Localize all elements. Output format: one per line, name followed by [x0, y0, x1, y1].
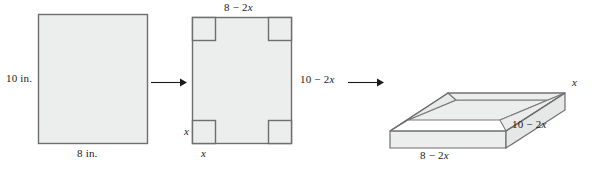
label-corners-top: 8 − 2x [224, 2, 253, 13]
arrow-one [151, 79, 187, 87]
label-box-depth: 10 − 2x [512, 119, 547, 130]
label-sheet-height: 10 in. [6, 73, 32, 84]
corner-square-top-left [193, 18, 216, 41]
sheet-with-corners-shape [193, 18, 292, 144]
box-inner-wall-back-right [448, 93, 565, 100]
arrow-one-head [180, 79, 187, 87]
corner-square-bottom-left [193, 121, 216, 144]
corner-square-top-right [269, 18, 292, 41]
figure-canvas [0, 0, 595, 170]
label-corners-right: 10 − 2x [300, 74, 335, 85]
arrow-two-head [377, 79, 384, 87]
box-front-face [390, 131, 506, 148]
arrow-two [348, 79, 384, 87]
label-corner-side-x: x [184, 126, 189, 137]
flat-sheet-shape [39, 15, 148, 144]
math-figure: 10 in. 8 in. 8 − 2x 10 − 2x x x x 10 − 2… [0, 0, 595, 170]
label-corner-bottom-x: x [201, 148, 206, 159]
corner-square-bottom-right [269, 121, 292, 144]
label-box-width: 8 − 2x [420, 150, 449, 161]
label-sheet-width: 8 in. [77, 148, 98, 159]
sheet-rectangle [39, 15, 148, 144]
label-box-height: x [572, 77, 577, 88]
